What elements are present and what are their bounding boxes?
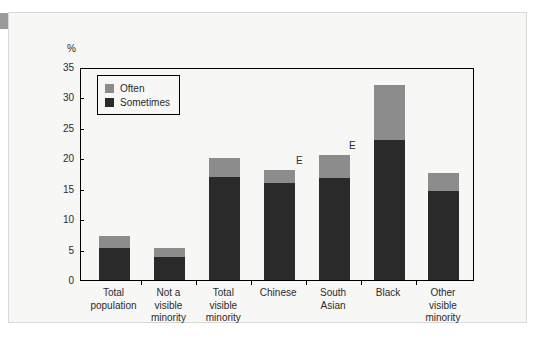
x-tick-mark [361,281,362,285]
quality-marker-chinese: E [296,155,303,166]
category-label-line: minority [180,312,266,325]
bar-segment-sometimes [154,257,185,280]
legend-swatch-often [105,84,114,93]
quality-marker-south-asian: E [349,140,356,151]
legend-item-sometimes: Sometimes [105,95,170,109]
chart-legend: Often Sometimes [97,75,180,115]
y-tick-label: 25 [52,124,74,134]
bar-segment-often [319,155,350,179]
bar-black [374,85,405,280]
bar-segment-often [154,248,185,257]
x-tick-mark [196,281,197,285]
category-label: Othervisibleminority [400,287,486,325]
x-tick-mark [141,281,142,285]
bar-chinese [264,170,295,280]
y-tick-label: 30 [52,93,74,103]
legend-label-often: Often [120,83,144,94]
legend-swatch-sometimes [105,98,114,107]
category-label-line: visible [180,300,266,313]
y-tick-label: 20 [52,154,74,164]
y-tick-label: 5 [52,246,74,256]
bar-segment-sometimes [374,140,405,280]
x-tick-mark [306,281,307,285]
x-tick-mark [416,281,417,285]
category-label-line: Asian [290,300,376,313]
legend-label-sometimes: Sometimes [120,97,170,108]
bar-segment-often [428,173,459,191]
bar-total-visible-minority [209,158,240,280]
bar-segment-often [264,170,295,182]
y-tick-label: 15 [52,185,74,195]
bar-segment-often [99,236,130,248]
category-label-line: Other [400,287,486,300]
bar-segment-often [209,158,240,176]
bar-total-population [99,236,130,280]
bar-segment-often [374,85,405,140]
bar-segment-sometimes [428,191,459,280]
bar-segment-sometimes [319,178,350,280]
x-tick-mark [251,281,252,285]
bar-segment-sometimes [264,183,295,280]
chart-panel: % 35 30 25 20 15 10 5 0 TotalpopulationN… [8,12,527,323]
y-tick-label: 10 [52,215,74,225]
bar-segment-sometimes [209,177,240,280]
bar-segment-sometimes [99,248,130,280]
bar-other-visible-minority [428,173,459,280]
bar-south-asian [319,155,350,280]
category-label-line: minority [400,312,486,325]
category-label-line: visible [400,300,486,313]
y-tick-label: 35 [52,63,74,73]
bar-not-a-visible-minority [154,248,185,280]
y-axis-label: % [67,43,76,54]
y-tick-label: 0 [52,276,74,286]
legend-item-often: Often [105,81,170,95]
